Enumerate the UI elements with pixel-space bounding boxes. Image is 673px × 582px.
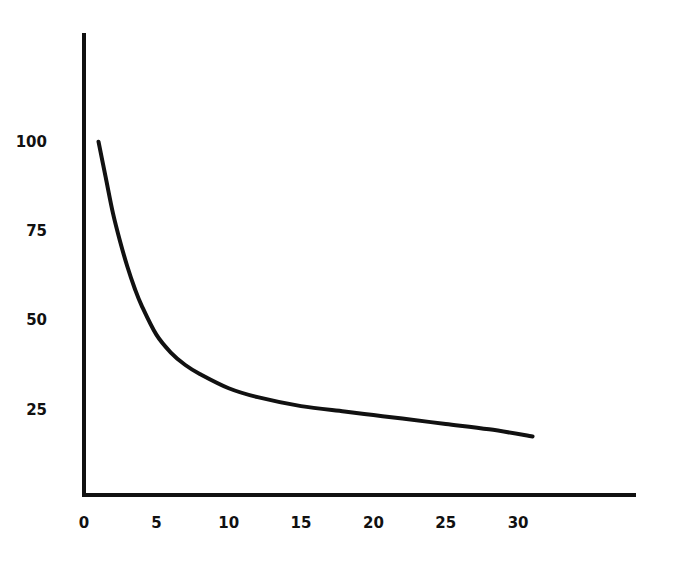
data-curve	[99, 142, 533, 437]
y-tick-label: 100	[16, 133, 47, 151]
x-tick-label: 20	[363, 514, 384, 532]
x-tick-label: 15	[291, 514, 312, 532]
x-tick-label: 10	[218, 514, 239, 532]
x-tick-label: 0	[79, 514, 89, 532]
y-tick-label: 50	[26, 311, 47, 329]
y-tick-labels: 255075100	[16, 133, 47, 419]
y-tick-label: 25	[26, 401, 47, 419]
x-tick-label: 30	[508, 514, 529, 532]
x-tick-labels: 051015202530	[79, 514, 529, 532]
line-chart: 051015202530 255075100	[0, 0, 673, 582]
x-tick-label: 5	[151, 514, 161, 532]
y-tick-label: 75	[26, 222, 47, 240]
x-tick-label: 25	[435, 514, 456, 532]
